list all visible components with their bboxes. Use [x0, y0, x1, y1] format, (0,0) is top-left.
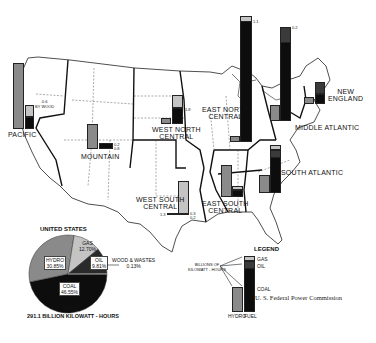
ma-oil-bar	[280, 27, 291, 43]
region-label-esc: EAST SOUTH CENTRAL	[202, 200, 249, 214]
region-label-wsc: WEST SOUTH CENTRAL	[136, 196, 185, 210]
pie-label-gas: GAS 12.70%	[79, 240, 96, 252]
enc-hydro-bar	[230, 136, 240, 142]
legend-label-oil: OIL	[257, 263, 265, 269]
region-label-ma: MIDDLE ATLANTIC	[295, 124, 359, 131]
pie-label-oil: OIL 9.81%	[90, 256, 108, 270]
region-label-enc: EAST NORTH CENTRAL	[202, 106, 249, 120]
region-label-pacific: PACIFIC	[8, 131, 37, 138]
pie-label-hydro: HYDRO 30.85%	[44, 256, 66, 270]
wnc-hydro-bar	[161, 118, 171, 124]
esc-label-line2: CENTRAL	[202, 207, 249, 214]
pie-title: UNITED STATES	[40, 226, 87, 232]
enc-label-line2: CENTRAL	[202, 113, 249, 120]
esc-coal-bar	[232, 190, 243, 197]
legend-label-coal: COAL	[257, 286, 271, 292]
legend-title: LEGEND	[254, 246, 279, 252]
legend-oil-bar	[244, 261, 255, 269]
pie-oil-pct: 9.81%	[92, 263, 106, 269]
wsc-annotation-3: 0.2	[190, 215, 196, 220]
pie-total-value: 291.1 BILLION KILOWATT - HOURS	[18, 313, 128, 320]
ma-hydro-bar	[270, 105, 280, 121]
esc-label-line1: EAST SOUTH	[202, 200, 249, 207]
legend-hydro-bar	[232, 287, 243, 312]
region-label-mountain: MOUNTAIN	[81, 153, 119, 160]
region-label-ne: NEW ENGLAND	[328, 88, 363, 102]
sa-oil-bar	[270, 150, 281, 158]
legend-label-gas: GAS	[257, 256, 268, 262]
pacific-gas-bar	[25, 105, 34, 117]
enc-label-line1: EAST NORTH	[202, 106, 249, 113]
pacific-wood-annotation: 0.6 BY WOOD	[35, 99, 54, 109]
wsc-label-line2: CENTRAL	[136, 203, 185, 210]
ne-hydro-bar	[304, 97, 314, 104]
wnc-annotation: 1.8	[185, 107, 191, 112]
ne-oil-bar	[315, 82, 325, 94]
pie-wood-pct: 0.13%	[112, 263, 155, 269]
pacific-oil-bar	[25, 117, 34, 129]
wsc-label-line1: WEST SOUTH	[136, 196, 185, 203]
enc-annotation: 1.1	[253, 19, 259, 24]
us-pie-chart	[28, 234, 108, 314]
pie-coal-pct: 46.55%	[61, 289, 78, 295]
wnc-label-line2: CENTRAL	[152, 133, 201, 140]
esc-hydro-bar	[221, 165, 232, 197]
sa-hydro-bar	[259, 175, 270, 193]
pie-label-coal: COAL 46.55%	[59, 282, 80, 296]
mountain-fuel-bar	[99, 143, 113, 149]
ma-annotation: 0.2	[292, 25, 298, 30]
mountain-hydro-bar	[87, 124, 98, 149]
wnc-label-line1: WEST NORTH	[152, 126, 201, 133]
pie-label-wood: WOOD & WASTES 0.13%	[112, 257, 155, 269]
pie-gas-pct: 12.70%	[79, 246, 96, 252]
region-label-wnc: WEST NORTH CENTRAL	[152, 126, 201, 140]
pie-total-label: TOTAL -	[18, 306, 128, 313]
wnc-gas-bar	[172, 95, 183, 108]
ne-label-line1: NEW	[328, 88, 363, 95]
wnc-coal-bar	[172, 108, 183, 124]
region-label-sa: SOUTH ATLANTIC	[281, 169, 343, 176]
pacific-hydro-bar	[13, 63, 24, 129]
wsc-fuel-line	[167, 213, 189, 215]
pie-hydro-pct: 30.85%	[46, 263, 64, 269]
ne-label-line2: ENGLAND	[328, 95, 363, 102]
wsc-annotation-1: 1.3	[160, 212, 166, 217]
enc-gas-bar	[240, 16, 252, 22]
pacific-wood-label: BY WOOD	[35, 104, 54, 109]
source-credit: U. S. Federal Power Commission	[255, 294, 342, 301]
enc-fuel-bar	[240, 16, 252, 142]
mountain-annotation-2: 0.8	[114, 146, 120, 151]
ne-coal-bar	[315, 94, 325, 104]
pie-total: TOTAL - 291.1 BILLION KILOWATT - HOURS	[18, 306, 128, 320]
legend-label-fuel: FUEL	[244, 313, 257, 319]
